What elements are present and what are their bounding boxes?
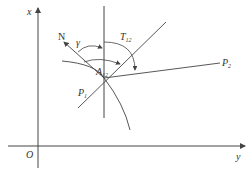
origin-label: O [26,149,33,160]
bearing-arc [104,42,135,70]
point-a12-label: A12 [95,66,108,78]
bearing-label: T12 [120,31,132,43]
point-p2-label: P2 [221,57,231,69]
coordinate-diagram: x y O N γ T12 A12 P1 P2 [0,0,252,173]
gamma-arc [78,46,102,52]
north-label: N [58,31,65,42]
x-axis-label: x [26,6,32,17]
gamma-label: γ [76,37,81,48]
point-p1-label: P1 [77,87,87,99]
y-axis-label: y [235,151,241,162]
diagram-svg: x y O N γ T12 A12 P1 P2 [0,0,252,173]
inner-angle-arc [84,59,120,64]
